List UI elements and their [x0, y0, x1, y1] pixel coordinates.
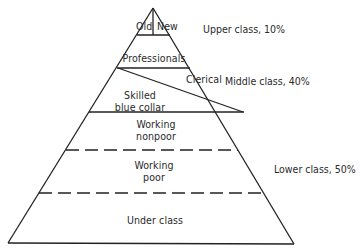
- nonpoor-line-1: Working: [136, 118, 175, 130]
- class-label-lower: Lower class, 50%: [274, 163, 356, 175]
- tier-label-clerical: Clerical: [186, 73, 222, 85]
- pyramid-base: [8, 243, 294, 244]
- skilled-line-1: Skilled: [124, 89, 156, 101]
- skilled-line-2: blue collar: [115, 101, 165, 113]
- class-label-upper: Upper class, 10%: [203, 23, 285, 35]
- poor-line-2: poor: [143, 171, 165, 183]
- tier-label-new: New: [157, 20, 178, 32]
- tier-label-working-nonpoor: Working nonpoor: [126, 118, 186, 142]
- class-label-middle: Middle class, 40%: [225, 75, 310, 87]
- tier-label-working-poor: Working poor: [124, 159, 184, 183]
- tier-label-professionals: Professionals: [117, 52, 191, 64]
- tier-label-skilled: Skilled blue collar: [110, 89, 170, 113]
- poor-line-1: Working: [134, 159, 173, 171]
- nonpoor-line-2: nonpoor: [136, 130, 176, 142]
- tier-label-under-class: Under class: [110, 214, 200, 226]
- tier-label-old: Old: [136, 20, 152, 32]
